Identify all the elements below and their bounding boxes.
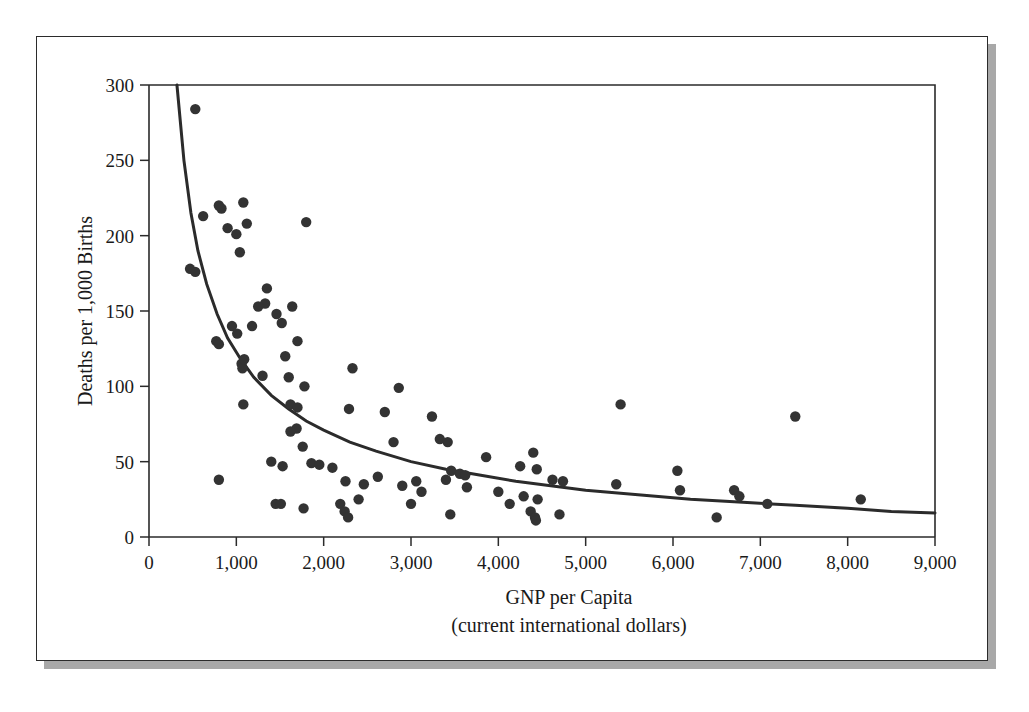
x-tick-label: 0 — [144, 552, 154, 573]
data-point — [856, 494, 866, 504]
data-point — [675, 485, 685, 495]
data-point — [734, 491, 744, 501]
x-tick-label: 6,000 — [652, 552, 695, 573]
y-tick-marks — [140, 85, 149, 537]
data-point — [445, 509, 455, 519]
x-tick-label: 4,000 — [477, 552, 520, 573]
data-point — [347, 363, 357, 373]
x-tick-label: 8,000 — [826, 552, 869, 573]
data-point — [190, 104, 200, 114]
data-point — [711, 512, 721, 522]
data-point — [397, 481, 407, 491]
y-tick-label: 300 — [106, 75, 135, 96]
y-tick-labels: 050100150200250300 — [106, 75, 135, 548]
data-point — [277, 318, 287, 328]
data-point — [344, 404, 354, 414]
data-point — [298, 441, 308, 451]
x-tick-label: 1,000 — [215, 552, 258, 573]
x-axis-subtitle: (current international dollars) — [451, 614, 686, 637]
data-point — [343, 512, 353, 522]
data-point — [190, 267, 200, 277]
data-point — [253, 301, 263, 311]
data-point — [532, 494, 542, 504]
x-tick-label: 5,000 — [564, 552, 607, 573]
y-tick-label: 50 — [115, 452, 134, 473]
data-point — [222, 223, 232, 233]
data-point — [532, 464, 542, 474]
data-point — [285, 426, 295, 436]
data-point — [238, 197, 248, 207]
data-point — [411, 476, 421, 486]
data-point — [198, 211, 208, 221]
x-tick-marks — [149, 537, 935, 546]
data-point — [462, 482, 472, 492]
data-point — [353, 494, 363, 504]
data-point — [406, 499, 416, 509]
data-point — [214, 339, 224, 349]
y-tick-label: 250 — [106, 150, 135, 171]
figure-root: 01,0002,0003,0004,0005,0006,0007,0008,00… — [0, 0, 1029, 712]
data-point — [235, 247, 245, 257]
data-point — [427, 411, 437, 421]
plot-axes — [149, 85, 935, 537]
data-point — [359, 479, 369, 489]
data-point — [299, 381, 309, 391]
data-point — [257, 371, 267, 381]
data-point — [232, 328, 242, 338]
data-point — [493, 487, 503, 497]
scatter-plot: 01,0002,0003,0004,0005,0006,0007,0008,00… — [0, 0, 1029, 712]
data-point — [280, 351, 290, 361]
data-point — [314, 459, 324, 469]
data-point — [547, 475, 557, 485]
data-point — [373, 472, 383, 482]
y-tick-label: 150 — [106, 301, 135, 322]
data-point — [442, 437, 452, 447]
data-point — [340, 476, 350, 486]
y-tick-label: 100 — [106, 376, 135, 397]
plot-box-top-right — [149, 85, 935, 537]
y-tick-label: 200 — [106, 226, 135, 247]
x-tick-labels: 01,0002,0003,0004,0005,0006,0007,0008,00… — [144, 552, 956, 573]
data-point — [214, 475, 224, 485]
data-point — [515, 461, 525, 471]
data-point — [611, 479, 621, 489]
data-point — [237, 363, 247, 373]
data-point — [239, 354, 249, 364]
data-point — [247, 321, 257, 331]
data-point — [441, 475, 451, 485]
data-point — [388, 437, 398, 447]
data-point — [790, 411, 800, 421]
y-axis-title: Deaths per 1,000 Births — [74, 216, 97, 406]
data-point — [271, 309, 281, 319]
data-point — [518, 491, 528, 501]
data-point — [380, 407, 390, 417]
data-point — [460, 470, 470, 480]
data-point — [238, 399, 248, 409]
data-points — [185, 104, 866, 526]
data-point — [292, 402, 302, 412]
data-point — [531, 515, 541, 525]
fit-curve — [177, 85, 935, 513]
data-point — [327, 462, 337, 472]
data-point — [301, 217, 311, 227]
data-point — [504, 499, 514, 509]
data-point — [276, 499, 286, 509]
data-point — [287, 301, 297, 311]
x-tick-label: 7,000 — [739, 552, 782, 573]
data-point — [216, 203, 226, 213]
data-point — [394, 383, 404, 393]
data-point — [292, 336, 302, 346]
data-point — [266, 456, 276, 466]
data-point — [231, 229, 241, 239]
x-tick-label: 2,000 — [302, 552, 345, 573]
x-tick-label: 3,000 — [390, 552, 433, 573]
x-axis-title: GNP per Capita — [505, 586, 632, 609]
fit-curve-path — [177, 85, 935, 513]
data-point — [672, 466, 682, 476]
data-point — [762, 499, 772, 509]
data-point — [277, 461, 287, 471]
y-tick-label: 0 — [125, 527, 135, 548]
data-point — [242, 218, 252, 228]
data-point — [558, 476, 568, 486]
data-point — [262, 283, 272, 293]
